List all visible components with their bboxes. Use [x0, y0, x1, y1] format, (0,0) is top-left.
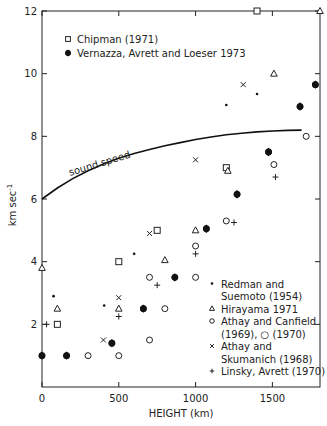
- small-dot-marker: [103, 304, 106, 307]
- sound-speed-label: sound speed: [67, 149, 131, 178]
- legend-item: Vernazza, Avrett and Loeser 1973: [65, 48, 245, 59]
- x-cross-marker: [116, 295, 121, 300]
- x-cross-marker: [241, 82, 246, 87]
- legend-top: Chipman (1971)Vernazza, Avrett and Loese…: [65, 34, 245, 59]
- open-triangle-marker: [210, 306, 215, 311]
- open-square-marker: [254, 8, 260, 14]
- x-cross-marker: [210, 344, 214, 348]
- plus-marker: [193, 251, 199, 257]
- small-dot-marker: [133, 253, 136, 256]
- open-circle-marker: [193, 274, 199, 280]
- legend-item: Chipman (1971): [66, 34, 159, 45]
- x-cross-marker: [147, 231, 152, 236]
- legend-label: Vernazza, Avrett and Loeser 1973: [77, 48, 246, 59]
- open-square-marker: [116, 259, 122, 265]
- legend-bottom: Redman andSuemoto (1954)Hirayama 1971Ath…: [210, 279, 326, 378]
- legend-label: Athay and Canfield: [221, 316, 316, 327]
- legend-item: Redman andSuemoto (1954): [211, 279, 303, 303]
- plus-marker: [272, 174, 278, 180]
- y-tick-label: 4: [31, 256, 37, 267]
- y-tick-label: 6: [31, 194, 37, 205]
- legend-label: Skumanich (1968): [221, 354, 313, 365]
- small-dot-marker: [256, 93, 259, 96]
- filled-diamond-marker: [65, 49, 71, 56]
- y-tick-label: 8: [31, 131, 37, 142]
- axis-ticks: 05001000150024681012: [24, 6, 320, 405]
- filled-diamond-marker: [203, 225, 210, 233]
- open-square-marker: [154, 227, 160, 233]
- x-cross-marker: [101, 338, 106, 343]
- open-circle-marker: [193, 243, 199, 249]
- open-circle-marker: [303, 133, 309, 139]
- x-axis-label: HEIGHT (km): [149, 408, 214, 419]
- legend-item: Linsky, Avrett (1970): [210, 366, 325, 377]
- scatter-chart: 05001000150024681012 Chipman (1971)Verna…: [0, 0, 327, 426]
- open-circle-marker: [223, 218, 229, 224]
- open-triangle-marker: [115, 305, 122, 311]
- plus-marker: [154, 282, 160, 288]
- legend-label: Redman and: [221, 279, 284, 290]
- y-tick-label: 12: [24, 6, 37, 17]
- small-dot-marker: [52, 295, 55, 298]
- open-circle-marker: [162, 306, 168, 312]
- legend-label: Suemoto (1954): [221, 291, 302, 302]
- open-circle-marker: [271, 162, 277, 168]
- legend-label: Athay and: [221, 341, 272, 352]
- x-tick-label: 1500: [260, 393, 285, 404]
- y-tick-label: 2: [31, 319, 37, 330]
- legend-label: Linsky, Avrett (1970): [221, 366, 325, 377]
- legend-label: Hirayama 1971: [221, 304, 298, 315]
- filled-diamond-marker: [234, 190, 241, 198]
- plus-marker: [231, 220, 237, 226]
- legend-item: Hirayama 1971: [210, 304, 299, 315]
- legend-label: Chipman (1971): [77, 34, 158, 45]
- plus-marker: [210, 369, 215, 374]
- legend-item: Athay andSkumanich (1968): [210, 341, 312, 365]
- filled-diamond-marker: [140, 304, 147, 312]
- filled-diamond-marker: [171, 273, 178, 281]
- open-triangle-marker: [271, 70, 278, 76]
- filled-diamond-marker: [312, 80, 319, 88]
- open-circle-marker: [147, 274, 153, 280]
- legend-label: (1969), ○ (1970): [221, 329, 306, 340]
- filled-diamond-marker: [297, 102, 304, 110]
- open-triangle-marker: [192, 227, 199, 233]
- svg-text:km sec-1: km sec-1: [6, 184, 18, 227]
- open-circle-marker: [85, 353, 91, 359]
- small-dot-marker: [211, 282, 214, 285]
- small-dot-marker: [225, 104, 228, 107]
- filled-diamond-marker: [63, 351, 70, 359]
- x-tick-label: 500: [109, 393, 128, 404]
- filled-diamond-marker: [39, 351, 46, 359]
- legend-item: Athay and Canfield(1969), ○ (1970): [210, 316, 316, 340]
- open-triangle-marker: [39, 264, 46, 270]
- open-triangle-marker: [162, 257, 169, 263]
- open-circle-marker: [147, 337, 153, 343]
- plus-marker: [44, 321, 50, 327]
- y-tick-label: 10: [24, 68, 37, 79]
- x-cross-marker: [193, 157, 198, 162]
- x-tick-label: 0: [39, 393, 45, 404]
- filled-diamond-marker: [265, 148, 272, 156]
- x-tick-label: 1000: [183, 393, 208, 404]
- open-circle-marker: [210, 319, 215, 324]
- y-axis-label: km sec-1: [6, 184, 18, 227]
- open-triangle-marker: [54, 305, 61, 311]
- plus-marker: [116, 314, 122, 320]
- open-circle-marker: [116, 353, 122, 359]
- filled-diamond-marker: [108, 339, 115, 347]
- open-square-marker: [54, 321, 60, 327]
- open-square-marker: [66, 37, 71, 42]
